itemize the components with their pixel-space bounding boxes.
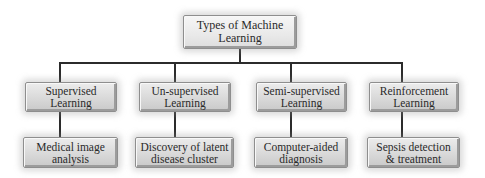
ml-types-tree-diagram: Types of Machine Learning Supervised Lea…	[0, 0, 485, 178]
category-node-unsupervised: Un-supervised Learning	[139, 82, 231, 112]
category-node-semi-supervised: Semi-supervised Learning	[256, 82, 347, 112]
connector-to-semisupervised	[290, 62, 292, 82]
connector-reinforcement-example	[401, 112, 403, 137]
root-node-label-line1: Types of Machine	[197, 18, 283, 32]
example-label-line1: Sepsis detection	[376, 141, 450, 153]
root-node-label-line2: Learning	[218, 31, 261, 45]
example-label-line1: Medical image	[36, 141, 105, 153]
category-label-line1: Reinforcement	[380, 85, 448, 97]
connector-to-supervised	[59, 62, 61, 82]
example-label-line1: Computer-aided	[264, 141, 339, 153]
category-label-line2: Learning	[281, 97, 323, 109]
category-label-line2: Learning	[50, 97, 92, 109]
connector-supervised-example	[59, 112, 61, 137]
connector-unsupervised-example	[174, 112, 176, 137]
category-label-line1: Semi-supervised	[263, 85, 340, 97]
example-label-line2: disease cluster	[151, 153, 218, 165]
category-label-line1: Un-supervised	[151, 85, 218, 97]
example-label-line2: analysis	[52, 153, 89, 165]
example-node-computer-aided-diagnosis: Computer-aided diagnosis	[254, 137, 348, 168]
category-label-line2: Learning	[164, 97, 206, 109]
connector-semisupervised-example	[290, 112, 292, 137]
example-node-medical-image-analysis: Medical image analysis	[23, 137, 118, 168]
category-label-line2: Learning	[393, 97, 435, 109]
category-node-supervised: Supervised Learning	[25, 82, 117, 112]
root-node-types-of-machine-learning: Types of Machine Learning	[183, 15, 297, 49]
example-node-sepsis-detection: Sepsis detection & treatment	[367, 137, 460, 168]
example-node-latent-disease-cluster: Discovery of latent disease cluster	[135, 137, 234, 168]
example-label-line1: Discovery of latent	[140, 141, 228, 153]
example-label-line2: & treatment	[386, 153, 441, 165]
connector-horizontal-bus	[59, 62, 403, 64]
category-label-line1: Supervised	[45, 85, 96, 97]
connector-to-unsupervised	[174, 62, 176, 82]
category-node-reinforcement: Reinforcement Learning	[369, 82, 459, 112]
connector-to-reinforcement	[401, 62, 403, 82]
example-label-line2: diagnosis	[279, 153, 322, 165]
